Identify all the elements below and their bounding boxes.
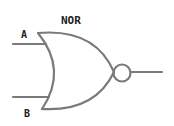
nor-gate-diagram: NOR A B <box>0 0 174 126</box>
input-b-label: B <box>24 108 30 119</box>
gate-title: NOR <box>61 14 81 27</box>
input-a-label: A <box>21 29 27 40</box>
inversion-bubble <box>114 65 131 82</box>
